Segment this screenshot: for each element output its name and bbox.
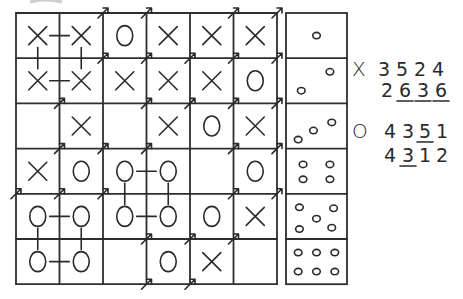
die-pip — [296, 204, 304, 210]
x-mark — [246, 117, 264, 135]
x-mark — [203, 27, 221, 45]
o-mark — [73, 252, 89, 272]
dice-column — [286, 13, 347, 284]
o-mark — [160, 206, 176, 226]
x-mark — [29, 162, 47, 180]
die-pip — [296, 226, 304, 232]
die-pip — [326, 69, 334, 75]
o-mark — [117, 161, 133, 181]
x-mark — [246, 27, 264, 45]
x-mark — [72, 117, 90, 135]
die-pip — [299, 176, 307, 182]
die-pip — [299, 161, 307, 167]
o-seq-digit: 4 — [384, 120, 396, 142]
x-seq-digit: 3 — [378, 58, 390, 80]
die-pip — [310, 127, 318, 133]
x-mark — [29, 27, 47, 45]
x-mark — [159, 117, 177, 135]
o-mark — [117, 206, 133, 226]
die-pip — [328, 225, 336, 231]
die-pip — [331, 268, 339, 274]
x-seq-digit: 5 — [396, 58, 408, 80]
die-pip — [330, 205, 338, 211]
o-mark — [247, 71, 263, 91]
x-symbol: X — [352, 57, 366, 81]
die-pip — [294, 136, 302, 142]
die-pip — [326, 176, 334, 182]
x-seq-digit: 2 — [414, 58, 426, 80]
die-pip — [294, 249, 302, 255]
x-mark — [29, 72, 47, 90]
o-seq-digit: 3 — [402, 120, 414, 142]
x-mark — [203, 253, 221, 271]
o-mark — [160, 161, 176, 181]
cropped-circle-fragment — [30, 0, 62, 2]
x-mark — [246, 207, 264, 225]
o-seq-digit: 1 — [436, 120, 448, 142]
o-mark — [247, 161, 263, 181]
die-pip — [313, 268, 321, 274]
die-pip — [313, 215, 321, 221]
x-mark — [72, 27, 90, 45]
die-pip — [331, 249, 339, 255]
die-pip — [326, 161, 334, 167]
die-pip — [294, 268, 302, 274]
o-seq-digit: 5 — [419, 120, 431, 142]
x-seq2-digit: 3 — [417, 79, 429, 101]
o-mark — [73, 206, 89, 226]
die-pip — [313, 249, 321, 255]
o-sequence: O 4 3 5 1 4 3 1 2 — [352, 119, 448, 166]
o-seq2-digit: 1 — [419, 144, 431, 166]
x-seq2-digit: 6 — [399, 79, 411, 101]
x-mark — [72, 72, 90, 90]
o-mark — [30, 252, 46, 272]
x-mark — [116, 72, 134, 90]
o-mark — [160, 252, 176, 272]
die-pip — [328, 119, 336, 125]
o-mark — [117, 26, 133, 46]
o-mark — [73, 161, 89, 181]
x-mark — [203, 72, 221, 90]
die-pip — [313, 32, 321, 38]
o-mark — [30, 206, 46, 226]
x-mark — [159, 72, 177, 90]
x-seq2-digit: 6 — [435, 79, 447, 101]
x-seq-digit: 4 — [432, 58, 444, 80]
x-sequence: X 3 5 2 4 2 6 3 6 — [352, 57, 447, 101]
o-seq2-digit: 3 — [402, 144, 414, 166]
o-mark — [204, 206, 220, 226]
o-seq2-digit: 4 — [384, 144, 396, 166]
die-pip — [297, 88, 305, 94]
o-seq2-digit: 2 — [436, 144, 448, 166]
x-seq2-digit: 2 — [381, 79, 393, 101]
o-mark — [204, 116, 220, 136]
o-symbol: O — [352, 119, 368, 143]
diagram-canvas: X 3 5 2 4 2 6 3 6 O 4 3 5 1 4 3 1 2 — [0, 0, 463, 299]
x-mark — [159, 27, 177, 45]
